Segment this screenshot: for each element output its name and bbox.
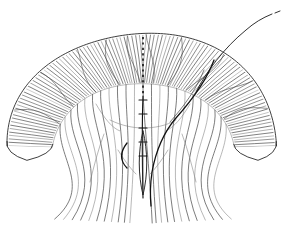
line-art-drawing <box>0 0 286 231</box>
illustration-canvas: Line-art illustration of a bilaterally s… <box>0 0 286 231</box>
